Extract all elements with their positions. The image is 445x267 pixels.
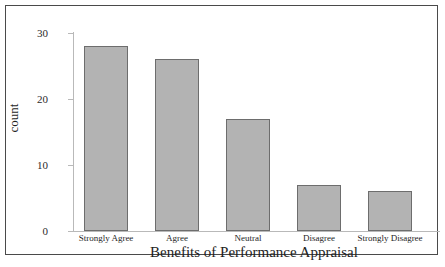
y-axis-label: count xyxy=(6,104,22,133)
y-tick-label-30: 30 xyxy=(8,28,48,39)
y-axis-line xyxy=(73,32,74,232)
bar-neutral xyxy=(226,119,270,231)
bar-strongly-disagree xyxy=(368,191,412,231)
y-tick-label-0: 0 xyxy=(8,226,48,237)
x-axis-label: Benefits of Performance Appraisal xyxy=(68,245,440,260)
bar-strongly-agree xyxy=(84,46,128,231)
x-tick-label-strongly-agree: Strongly Agree xyxy=(66,234,146,243)
figure-frame: 0 10 20 30 count Strongly Agree Agree Ne… xyxy=(5,5,438,255)
bar-agree xyxy=(155,59,199,231)
x-tick-label-neutral: Neutral xyxy=(208,234,288,243)
x-axis-line xyxy=(68,231,440,232)
bar-disagree xyxy=(297,185,341,231)
y-tick-mark-20 xyxy=(68,99,73,100)
x-tick-label-disagree: Disagree xyxy=(279,234,359,243)
x-tick-label-strongly-disagree: Strongly Disagree xyxy=(350,234,430,243)
x-tick-label-agree: Agree xyxy=(137,234,217,243)
y-tick-mark-10 xyxy=(68,165,73,166)
figure-canvas: 0 10 20 30 count Strongly Agree Agree Ne… xyxy=(0,0,445,267)
y-tick-mark-30 xyxy=(68,33,73,34)
y-tick-mark-0 xyxy=(68,231,73,232)
y-tick-label-10: 10 xyxy=(8,160,48,171)
